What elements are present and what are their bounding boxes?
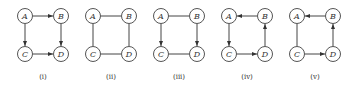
node-b: B xyxy=(54,9,69,24)
node-label: C xyxy=(90,50,96,59)
node-b: B xyxy=(190,9,205,24)
graph-caption: (iv) xyxy=(241,73,253,81)
node-a: A xyxy=(154,9,169,24)
node-label: D xyxy=(329,50,337,59)
graph-caption: (ii) xyxy=(106,73,116,81)
node-label: C xyxy=(294,50,300,59)
node-d: D xyxy=(122,47,137,62)
node-d: D xyxy=(190,47,205,62)
node-c: C xyxy=(154,47,169,62)
node-label: B xyxy=(125,12,132,21)
node-label: A xyxy=(89,12,96,21)
node-label: C xyxy=(226,50,232,59)
node-a: A xyxy=(290,9,305,24)
node-label: C xyxy=(22,50,28,59)
node-d: D xyxy=(258,47,273,62)
node-label: A xyxy=(157,12,164,21)
graph-panel-2: ABCD(ii) xyxy=(86,9,137,82)
node-a: A xyxy=(86,9,101,24)
node-label: B xyxy=(193,12,200,21)
node-c: C xyxy=(222,47,237,62)
node-label: A xyxy=(21,12,28,21)
node-d: D xyxy=(326,47,341,62)
graph-panel-4: ABCD(iv) xyxy=(222,9,273,82)
node-b: B xyxy=(326,9,341,24)
node-a: A xyxy=(222,9,237,24)
node-label: D xyxy=(125,50,133,59)
node-label: C xyxy=(158,50,164,59)
node-label: A xyxy=(225,12,232,21)
graph-figure: ABCD(i)ABCD(ii)ABCD(iii)ABCD(iv)ABCD(v) xyxy=(0,0,358,88)
node-label: B xyxy=(57,12,64,21)
node-label: D xyxy=(193,50,201,59)
node-c: C xyxy=(290,47,305,62)
node-label: D xyxy=(57,50,65,59)
node-label: B xyxy=(261,12,268,21)
node-c: C xyxy=(18,47,33,62)
graph-panel-1: ABCD(i) xyxy=(18,9,69,82)
node-label: D xyxy=(261,50,269,59)
graph-caption: (iii) xyxy=(173,73,185,81)
node-label: B xyxy=(329,12,336,21)
graph-panel-3: ABCD(iii) xyxy=(154,9,205,82)
graph-caption: (v) xyxy=(310,73,320,81)
node-label: A xyxy=(293,12,300,21)
graph-caption: (i) xyxy=(39,73,47,81)
graph-panel-5: ABCD(v) xyxy=(290,9,341,82)
node-b: B xyxy=(258,9,273,24)
node-b: B xyxy=(122,9,137,24)
node-c: C xyxy=(86,47,101,62)
node-a: A xyxy=(18,9,33,24)
node-d: D xyxy=(54,47,69,62)
